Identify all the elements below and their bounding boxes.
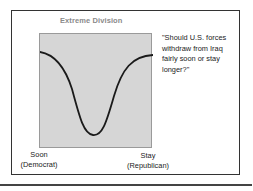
question-line: longer?" <box>162 65 244 76</box>
x-label-soon: Soon (Democrat) <box>16 150 62 169</box>
question-line: "Should U.S. forces <box>162 33 244 44</box>
horizontal-divider <box>0 184 252 186</box>
question-line: withdraw from Iraq <box>162 44 244 55</box>
x-label-line: Stay <box>120 151 176 161</box>
plot-area <box>39 33 152 148</box>
chart-title: Extreme Division <box>60 16 122 25</box>
question-line: fairly soon or stay <box>162 54 244 65</box>
x-label-line: Soon <box>16 150 62 160</box>
x-label-line: (Democrat) <box>16 160 62 170</box>
x-label-line: (Republican) <box>120 161 176 171</box>
x-label-stay: Stay (Republican) <box>120 151 176 170</box>
question-annotation: "Should U.S. forces withdraw from Iraq f… <box>162 33 244 75</box>
distribution-curve <box>40 34 153 149</box>
